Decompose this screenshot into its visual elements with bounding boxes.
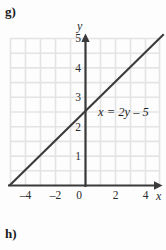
part-label-h: h) (5, 226, 17, 242)
x-tick-4: 4 (143, 189, 149, 201)
y-tick-5: 5 (75, 32, 81, 44)
coordinate-plane-svg: 5 4 3 2 1 –4 –2 0 2 4 y x x = 2y – 5 (0, 0, 166, 215)
figure-page: g) (0, 0, 166, 250)
x-tick-2: 2 (113, 189, 119, 201)
y-tick-3: 3 (75, 91, 81, 103)
y-tick-2: 2 (75, 121, 81, 133)
x-tick-minus2: –2 (49, 189, 62, 201)
x-tick-minus4: –4 (19, 189, 32, 201)
y-tick-4: 4 (75, 62, 81, 74)
y-axis-tick-labels: 5 4 3 2 1 (75, 32, 81, 162)
graph-figure: 5 4 3 2 1 –4 –2 0 2 4 y x x = 2y – 5 (0, 0, 166, 215)
y-tick-1: 1 (75, 150, 81, 162)
equation-annotation: x = 2y – 5 (97, 105, 149, 119)
x-tick-origin: 0 (76, 189, 82, 201)
x-axis-name: x (155, 189, 162, 203)
y-axis-name: y (76, 19, 83, 33)
x-axis-tick-labels: –4 –2 0 2 4 (19, 189, 149, 201)
